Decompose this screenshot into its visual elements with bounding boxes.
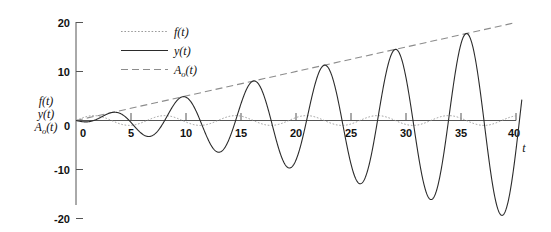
xtick-label-0: 0 bbox=[80, 127, 86, 139]
legend-label-tail: (t) bbox=[186, 63, 197, 77]
xtick-label-20: 20 bbox=[290, 127, 302, 139]
xtick-label-15: 15 bbox=[235, 127, 247, 139]
legend-label-y: y(t) bbox=[173, 44, 191, 58]
xtick-label-10: 10 bbox=[180, 127, 192, 139]
ytick-label-neg20: -20 bbox=[54, 213, 70, 225]
xtick-label-25: 25 bbox=[345, 127, 357, 139]
legend-label-f: f(t) bbox=[174, 25, 189, 39]
resonance-plot: 20 10 0 -10 -20 0 5 10 15 20 25 30 35 40… bbox=[0, 0, 551, 232]
y-axis-title-line2: y(t) bbox=[37, 107, 55, 121]
y-axis-title-line3: Ao(t) bbox=[34, 120, 58, 136]
legend: f(t) y(t) Ao(t) bbox=[121, 25, 197, 79]
figure-container: 20 10 0 -10 -20 0 5 10 15 20 25 30 35 40… bbox=[0, 0, 551, 232]
y-axis-title-line1: f(t) bbox=[39, 94, 54, 108]
y-axis-title-tail: (t) bbox=[46, 120, 57, 134]
xtick-label-35: 35 bbox=[455, 127, 467, 139]
ytick-label-neg10: -10 bbox=[54, 164, 70, 176]
ytick-label-20: 20 bbox=[58, 17, 70, 29]
ytick-label-0: 0 bbox=[64, 120, 70, 132]
xtick-label-30: 30 bbox=[400, 127, 412, 139]
x-axis-title: t bbox=[522, 141, 526, 155]
legend-label-envelope: Ao(t) bbox=[173, 63, 197, 79]
ytick-label-10: 10 bbox=[58, 66, 70, 78]
xtick-label-5: 5 bbox=[128, 127, 134, 139]
series-line-y-of-t bbox=[76, 34, 522, 216]
x-tick-marks bbox=[131, 113, 516, 121]
